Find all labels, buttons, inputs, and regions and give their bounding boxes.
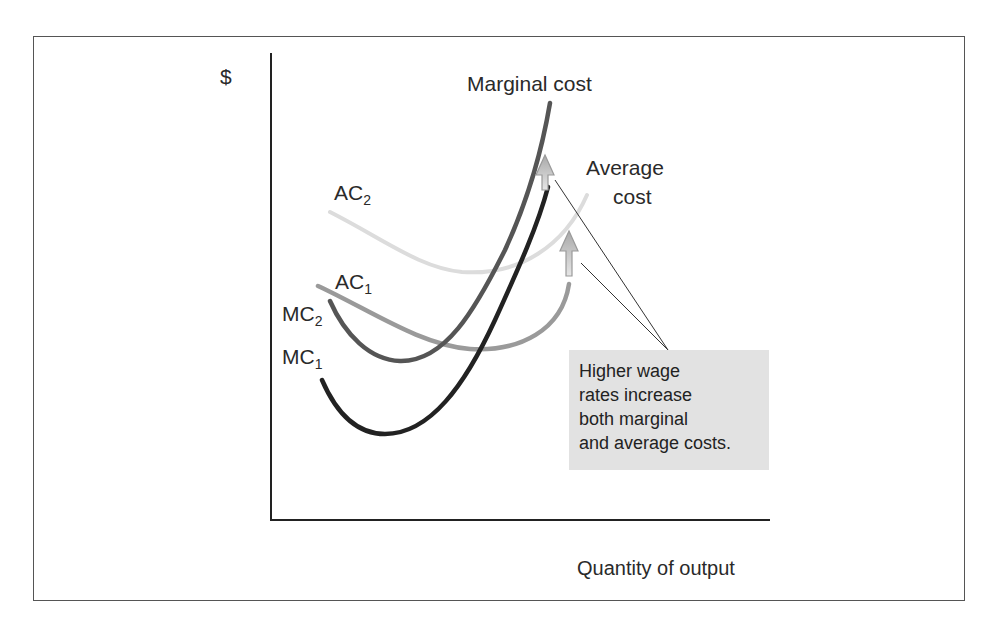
y-axis-label: $ <box>220 66 232 87</box>
mc1-label: MC1 <box>282 346 322 371</box>
marginal-cost-label: Marginal cost <box>467 73 592 94</box>
ac1-label-main: AC <box>335 270 364 293</box>
ac2-label: AC2 <box>334 182 371 207</box>
average-cost-label-line1: Average <box>586 157 664 178</box>
arrow-up-icon <box>560 231 578 276</box>
x-axis-label: Quantity of output <box>577 558 735 578</box>
ac2-label-main: AC <box>334 181 363 204</box>
callout-line: and average costs. <box>579 431 759 455</box>
mc2-label: MC2 <box>282 303 322 328</box>
average-cost-label-line2: cost <box>613 186 652 207</box>
callout-pointer <box>581 263 668 350</box>
mc2-label-sub: 2 <box>315 313 323 329</box>
callout-box: Higher wage rates increase both marginal… <box>569 350 769 470</box>
mc2-label-main: MC <box>282 302 315 325</box>
ac1-label: AC1 <box>335 271 372 296</box>
callout-line: Higher wage <box>579 359 759 383</box>
ac1-label-sub: 1 <box>364 281 372 297</box>
ac2-label-sub: 2 <box>363 192 371 208</box>
callout-line: both marginal <box>579 407 759 431</box>
mc1-label-sub: 1 <box>315 356 323 372</box>
callout-line: rates increase <box>579 383 759 407</box>
mc1-label-main: MC <box>282 345 315 368</box>
